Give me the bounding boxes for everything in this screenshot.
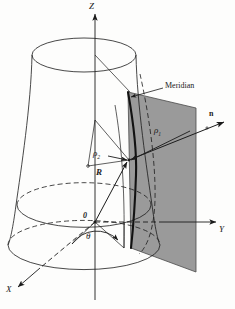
position-vector-label: R xyxy=(96,168,102,177)
geometry-figure: Z Y X 0 θ R n ρ1 ρ2 Meridian xyxy=(0,0,235,309)
point-p-dot xyxy=(128,159,131,162)
rho1-label: ρ1 xyxy=(154,126,161,137)
normal-vector-label: n xyxy=(209,110,213,118)
meridian-plane xyxy=(128,92,196,272)
top-rim-ellipse xyxy=(32,38,136,72)
rho2-subscript: 2 xyxy=(97,154,100,160)
origin-label: 0 xyxy=(83,212,87,220)
meridian-label: Meridian xyxy=(165,82,194,90)
axis-z-label: Z xyxy=(89,2,94,11)
rho2-label: ρ2 xyxy=(93,149,100,160)
axis-x-label: X xyxy=(6,285,12,294)
origin-dot xyxy=(93,220,96,223)
axis-y-label: Y xyxy=(219,225,224,234)
meridian-leader-line xyxy=(131,88,163,97)
top-radius-line xyxy=(95,55,130,92)
rho1-subscript: 1 xyxy=(158,131,161,137)
axis-x xyxy=(18,222,95,287)
diagram-canvas xyxy=(0,0,235,309)
theta-label: θ xyxy=(86,232,90,241)
